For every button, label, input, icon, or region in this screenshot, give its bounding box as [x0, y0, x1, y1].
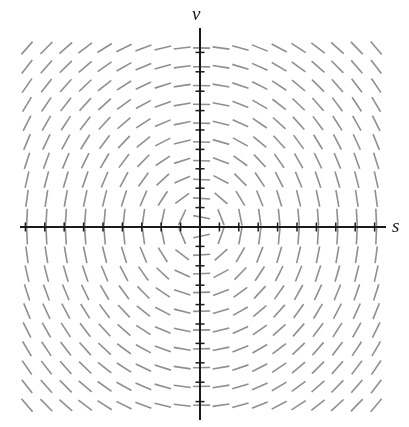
slope-field-canvas: [0, 0, 409, 427]
vertical-axis-label: v: [192, 4, 200, 23]
horizontal-axis-label: s: [392, 216, 399, 235]
direction-field-plot: v s: [0, 0, 409, 427]
